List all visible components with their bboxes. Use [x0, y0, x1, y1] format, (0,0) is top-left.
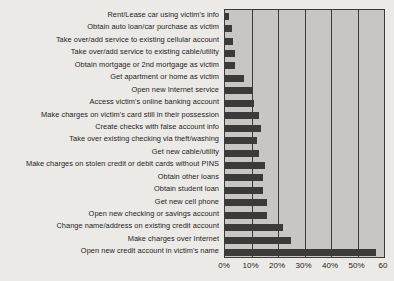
bar-row: [225, 221, 384, 233]
bar-row: [225, 47, 384, 59]
bar-row: [225, 209, 384, 221]
category-label: Create checks with false account info: [0, 121, 222, 133]
bar: [225, 13, 229, 20]
category-label: Open new credit account in victim's name: [0, 245, 222, 257]
bar: [225, 75, 244, 82]
bar-row: [225, 35, 384, 47]
bar: [225, 50, 235, 57]
category-label: Obtain mortgage or 2nd mortgage as victi…: [0, 59, 222, 71]
category-label: Open new Internet service: [0, 84, 222, 96]
bar: [225, 137, 257, 144]
x-tick-label: 20%: [269, 261, 285, 270]
identity-theft-bar-chart: Rent/Lease car using victim's infoObtain…: [0, 0, 394, 281]
bar: [225, 38, 233, 45]
x-tick-label: 30%: [295, 261, 311, 270]
category-label: Get new cable/utility: [0, 146, 222, 158]
bar-row: [225, 172, 384, 184]
bar: [225, 224, 283, 231]
bar: [225, 112, 259, 119]
category-label: Make charges on victim's card still in t…: [0, 109, 222, 121]
bar-row: [225, 97, 384, 109]
bar: [225, 162, 265, 169]
bar-row: [225, 10, 384, 22]
x-tick-label: 50%: [348, 261, 364, 270]
category-axis-labels: Rent/Lease car using victim's infoObtain…: [0, 9, 222, 258]
x-tick-label: 10%: [242, 261, 258, 270]
plot-area: [224, 9, 385, 258]
bar-row: [225, 184, 384, 196]
bar: [225, 174, 263, 181]
bar: [225, 25, 232, 32]
x-tick-label: 0%: [218, 261, 230, 270]
bar-row: [225, 159, 384, 171]
category-label: Take over/add service to existing cellul…: [0, 34, 222, 46]
bar-series: [225, 10, 384, 257]
category-label: Take over/add service to existing cable/…: [0, 46, 222, 58]
bar-row: [225, 22, 384, 34]
gridline-60: [384, 10, 385, 257]
bar-row: [225, 246, 384, 258]
x-tick-label: 60: [379, 261, 388, 270]
category-label: Make charges on stolen credit or debit c…: [0, 158, 222, 170]
bar: [225, 150, 259, 157]
bar: [225, 212, 267, 219]
bar: [225, 87, 252, 94]
bar-row: [225, 197, 384, 209]
bar: [225, 187, 263, 194]
bar: [225, 125, 261, 132]
category-label: Rent/Lease car using victim's info: [0, 9, 222, 21]
bar-row: [225, 234, 384, 246]
bar: [225, 62, 235, 69]
category-label: Get new cell phone: [0, 196, 222, 208]
bar-row: [225, 60, 384, 72]
category-label: Obtain auto loan/car purchase as victim: [0, 21, 222, 33]
x-tick-label: 40%: [322, 261, 338, 270]
bar: [225, 237, 291, 244]
category-label: Open new checking or savings account: [0, 208, 222, 220]
bar-row: [225, 110, 384, 122]
bar: [225, 199, 267, 206]
bar: [225, 100, 254, 107]
value-axis-labels: 0%10%20%30%40%50%60: [224, 259, 385, 275]
category-label: Take over existing checking via theft/wa…: [0, 133, 222, 145]
category-label: Access victim's online banking account: [0, 96, 222, 108]
bar-row: [225, 122, 384, 134]
bar-row: [225, 134, 384, 146]
bar-row: [225, 85, 384, 97]
category-label: Make charges over Internet: [0, 233, 222, 245]
category-label: Get apartment or home as victim: [0, 71, 222, 83]
category-label: Obtain other loans: [0, 171, 222, 183]
bar: [225, 249, 376, 256]
category-label: Change name/address on existing credit a…: [0, 220, 222, 232]
bar-row: [225, 72, 384, 84]
category-label: Obtain student loan: [0, 183, 222, 195]
bar-row: [225, 147, 384, 159]
